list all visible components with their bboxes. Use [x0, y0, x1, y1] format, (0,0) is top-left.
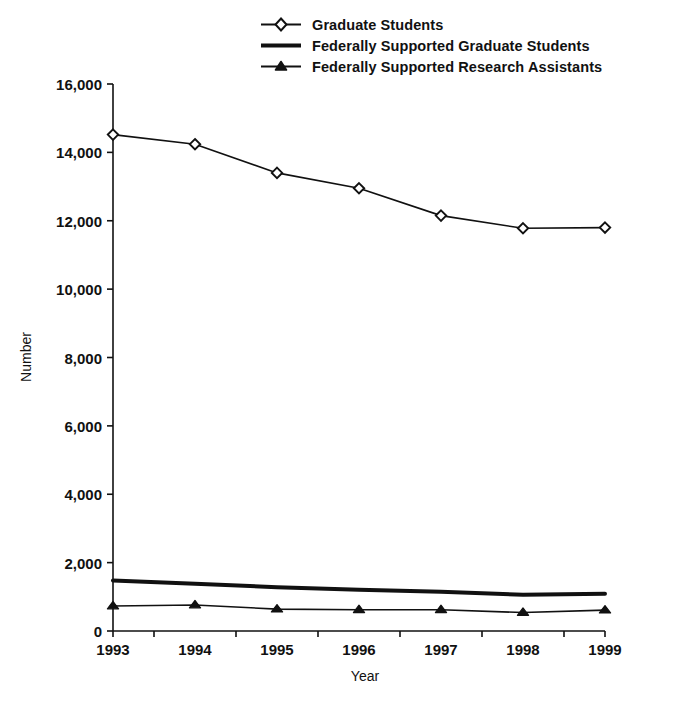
x-axis-tick-label: 1998: [483, 641, 563, 658]
x-axis-tick-labels: 1993199419951996199719981999: [0, 0, 684, 714]
x-axis-tick-label: 1994: [155, 641, 235, 658]
x-axis-tick-label: 1999: [565, 641, 645, 658]
x-axis-tick-label: 1993: [73, 641, 153, 658]
x-axis-title: Year: [0, 668, 684, 684]
x-axis-tick-label: 1995: [237, 641, 317, 658]
x-axis-tick-label: 1996: [319, 641, 399, 658]
line-chart-figure: Graduate Students Federally Supported Gr…: [0, 0, 684, 714]
x-axis-title-text: Year: [351, 668, 379, 684]
x-axis-tick-label: 1997: [401, 641, 481, 658]
